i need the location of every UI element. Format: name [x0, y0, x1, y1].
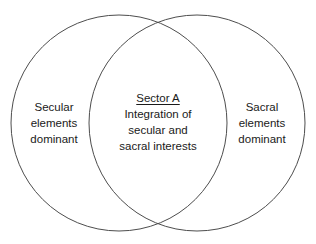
secular-circle-label: Secular elements dominant: [0, 99, 108, 147]
sacral-label-line-2: elements: [208, 115, 316, 131]
sector-a-label: Sector A Integration of secular and sacr…: [98, 90, 218, 154]
secular-label-line-3: dominant: [0, 131, 108, 147]
sacral-label-line-3: dominant: [208, 131, 316, 147]
sacral-circle-label: Sacral elements dominant: [208, 99, 316, 147]
secular-label-line-1: Secular: [0, 99, 108, 115]
secular-label-line-2: elements: [0, 115, 108, 131]
sacral-label-line-1: Sacral: [208, 99, 316, 115]
sector-a-line-2: secular and: [98, 122, 218, 138]
sector-a-title-line: Sector A: [98, 90, 218, 106]
sector-a-line-1: Integration of: [98, 106, 218, 122]
sector-a-line-3: sacral interests: [98, 138, 218, 154]
venn-diagram: Secular elements dominant Sector A Integ…: [0, 0, 316, 244]
sector-a-title: Sector A: [133, 90, 182, 106]
